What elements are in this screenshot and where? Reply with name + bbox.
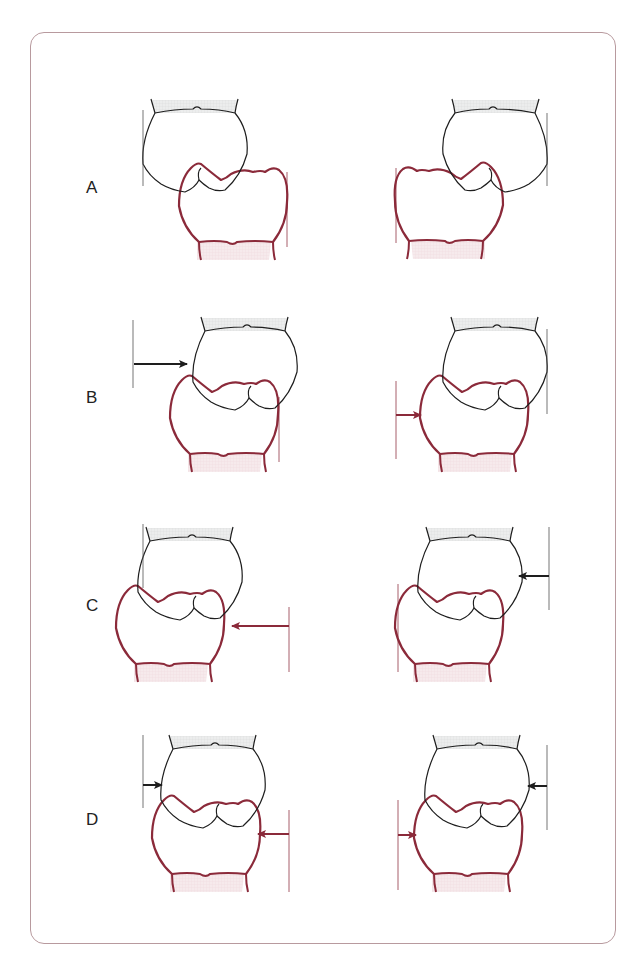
panel-a-right (395, 99, 548, 259)
panel-a-left (143, 99, 288, 260)
lower-molar (170, 376, 278, 473)
panel-d-left (143, 735, 289, 892)
panel-d-right (398, 735, 547, 892)
upper-molar (418, 527, 523, 620)
upper-molar (138, 527, 243, 620)
panel-b-right (396, 317, 547, 472)
panel-b-left (133, 317, 297, 472)
occlusion-diagram (0, 0, 630, 956)
lower-molar (116, 586, 224, 683)
lower-molar (420, 376, 528, 473)
upper-molar (425, 735, 530, 828)
lower-molar (179, 164, 287, 261)
lower-molar (414, 796, 522, 893)
panel-c-right (395, 527, 549, 682)
lower-molar (395, 163, 503, 260)
upper-molar (193, 317, 298, 410)
upper-molar (161, 735, 266, 828)
upper-molar (443, 317, 548, 410)
lower-molar (395, 586, 503, 683)
panel-c-left (116, 524, 289, 682)
upper-molar (143, 99, 248, 192)
